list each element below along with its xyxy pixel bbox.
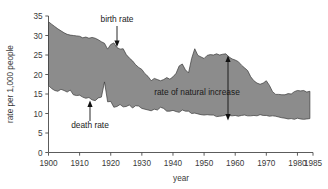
x-tick-group (49, 153, 314, 156)
x-axis: 1900191019201930194019501960197019801985… (39, 153, 322, 184)
x-tick-label-group: 1900191019201930194019501960197019801985 (39, 159, 322, 168)
y-tick-group (45, 16, 48, 153)
y-tick-label: 5 (38, 129, 43, 138)
y-tick-label: 0 (38, 149, 43, 158)
natural-increase-arrow-head-bottom (225, 114, 230, 121)
x-tick-label: 1950 (195, 159, 214, 168)
demographic-area-chart: 05101520253035 rate per 1,000 people 190… (0, 0, 328, 189)
y-tick-label-group: 05101520253035 (33, 12, 43, 158)
x-tick-label: 1910 (71, 159, 90, 168)
y-tick-label: 25 (33, 51, 43, 60)
plot-area (49, 22, 310, 120)
x-tick-label: 1930 (133, 159, 152, 168)
x-tick-label: 1940 (164, 159, 183, 168)
y-axis-title: rate per 1,000 people (6, 45, 15, 123)
x-tick-label: 1900 (39, 159, 58, 168)
x-tick-label: 1920 (102, 159, 121, 168)
annotation-birth-rate: birth rate (100, 14, 133, 47)
y-tick-label: 15 (33, 90, 43, 99)
x-tick-label: 1970 (257, 159, 276, 168)
x-axis-title: year (173, 174, 189, 183)
natural-increase-label: rate of natural increase (154, 87, 240, 97)
y-tick-label: 35 (33, 12, 43, 21)
death-rate-label: death rate (71, 120, 109, 130)
annotation-death-rate: death rate (71, 101, 109, 131)
death-rate-arrow-head (87, 101, 92, 108)
x-tick-label: 1960 (226, 159, 245, 168)
y-axis: 05101520253035 rate per 1,000 people (6, 12, 49, 158)
y-tick-label: 10 (33, 110, 43, 119)
birth-rate-label: birth rate (100, 14, 133, 24)
y-tick-label: 20 (33, 71, 43, 80)
natural-increase-band (49, 22, 310, 120)
x-tick-label: 1985 (304, 159, 323, 168)
chart-container: 05101520253035 rate per 1,000 people 190… (0, 0, 328, 189)
y-tick-label: 30 (33, 32, 43, 41)
